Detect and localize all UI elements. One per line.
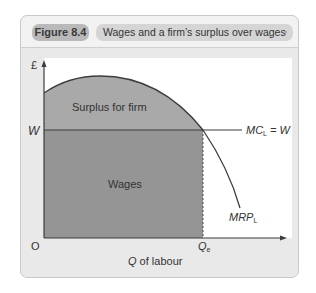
w-tick-label: W: [28, 124, 41, 138]
mc-label: MCL = W: [246, 124, 292, 137]
origin-label: O: [31, 240, 40, 252]
qe-tick-label: Qe: [198, 240, 211, 253]
chart: £ W O Surplus for firm Wages MCL = W MRP…: [0, 0, 316, 293]
mrp-label: MRPL: [229, 211, 257, 224]
surplus-label: Surplus for firm: [72, 101, 147, 113]
wages-label: Wages: [108, 178, 142, 190]
y-axis-label: £: [31, 59, 37, 71]
x-axis-label: Q of labour: [128, 255, 183, 267]
